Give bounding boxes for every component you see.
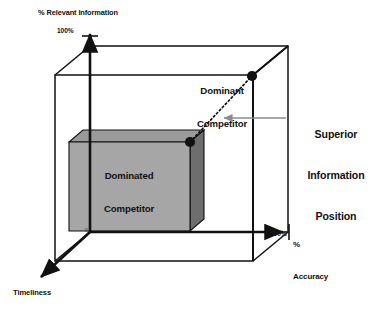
x-axis-tick-label: 100%	[270, 230, 286, 237]
dominant-competitor-label-line1: Dominant	[197, 85, 247, 96]
dominated-competitor-label-line2: Competitor	[104, 203, 154, 214]
diagram-canvas: % Relevant Information 100% 100% % Accur…	[0, 0, 388, 315]
dominated-competitor-dot	[185, 137, 195, 147]
marker-dominant-competitor	[247, 71, 257, 81]
superior-label-line3: Position	[288, 210, 384, 224]
z-axis-label: Timeliness	[13, 289, 51, 298]
dominant-competitor-label: Dominant Competitor	[197, 63, 247, 151]
dominated-competitor-label: Dominated Competitor	[104, 148, 154, 236]
x-axis-label-line2: Accuracy	[293, 272, 328, 283]
dominant-corner-edge	[253, 46, 288, 261]
superior-label-line2: Information	[288, 169, 384, 183]
outer-edge-top-left	[55, 46, 90, 75]
dominant-competitor-dot	[247, 71, 257, 81]
marker-dominated-competitor	[185, 137, 195, 147]
dominated-competitor-label-line1: Dominated	[104, 170, 154, 181]
y-axis-tick-label: 100%	[57, 27, 73, 34]
y-axis-label: % Relevant Information	[38, 9, 118, 17]
z-axis-line	[41, 232, 90, 277]
superior-label-line1: Superior	[288, 128, 384, 142]
origin-label: 0	[85, 228, 88, 234]
dominant-competitor-label-line2: Competitor	[197, 118, 247, 129]
superior-information-position-label: Superior Information Position	[288, 100, 384, 251]
dominant-edge-segment	[253, 46, 288, 75]
